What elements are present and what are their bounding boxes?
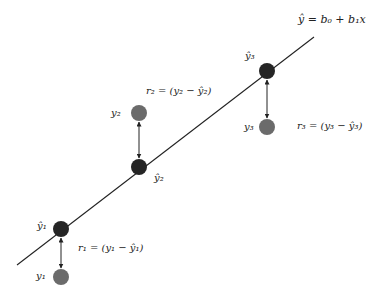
residual-label-1: r₁ = (y₁ − ŷ₁) bbox=[78, 243, 143, 253]
predicted-label-3: ŷ₃ bbox=[245, 51, 255, 61]
predicted-point-2 bbox=[131, 159, 147, 175]
observed-label-1: y₁ bbox=[36, 271, 46, 281]
predicted-label-2: ŷ₂ bbox=[154, 173, 164, 183]
predicted-point-3 bbox=[259, 63, 275, 79]
regression-equation: ŷ = b₀ + b₁x bbox=[298, 14, 366, 25]
observed-point-1 bbox=[53, 269, 69, 285]
residual-label-2: r₂ = (y₂ − ŷ₂) bbox=[146, 86, 211, 96]
observed-label-2: y₂ bbox=[111, 108, 121, 118]
predicted-label-1: ŷ₁ bbox=[37, 221, 47, 231]
observed-label-3: y₃ bbox=[244, 122, 254, 132]
predicted-point-1 bbox=[53, 221, 69, 237]
observed-point-3 bbox=[259, 119, 275, 135]
residual-label-3: r₃ = (y₃ − ŷ₃) bbox=[297, 121, 362, 131]
observed-point-2 bbox=[131, 105, 147, 121]
regression-diagram bbox=[0, 0, 378, 301]
